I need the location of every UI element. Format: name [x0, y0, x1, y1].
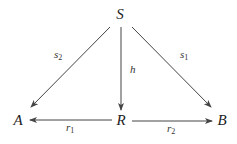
label-r2: r2: [167, 122, 175, 136]
node-s: S: [116, 6, 124, 22]
label-r1: r1: [66, 121, 74, 135]
arrow-s-to-b: [132, 27, 211, 107]
arrow-s-to-a: [31, 27, 110, 107]
node-a: A: [12, 112, 23, 128]
label-h: h: [130, 63, 136, 75]
label-s2: s2: [54, 48, 62, 62]
commutative-diagram: S A R B s2 h s1 r1 r2: [0, 0, 237, 144]
node-b: B: [217, 112, 226, 128]
label-s1: s1: [180, 48, 188, 62]
node-r: R: [115, 112, 125, 128]
